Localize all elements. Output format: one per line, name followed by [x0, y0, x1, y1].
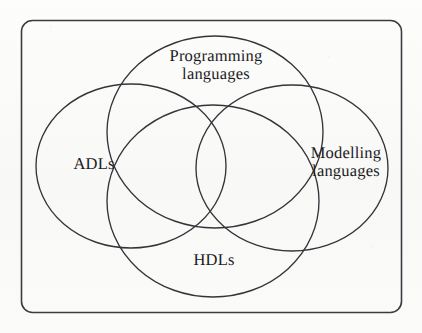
set-label-adls: ADLs	[46, 155, 142, 173]
set-label-programming-languages: Programming languages	[136, 47, 296, 84]
set-label-modelling-languages: Modelling languages	[290, 144, 402, 181]
set-label-hdls: HDLs	[166, 251, 262, 269]
venn-diagram-figure: Programming languages ADLs Modelling lan…	[0, 0, 422, 333]
